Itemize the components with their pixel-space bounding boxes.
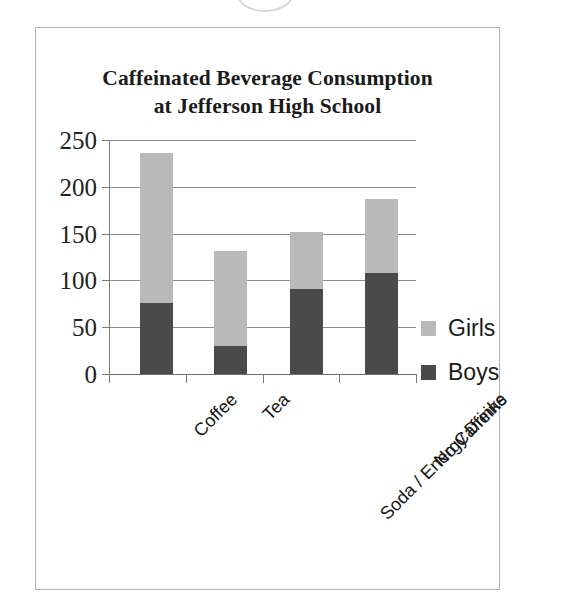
y-tick-mark-200 [102,187,110,188]
y-tick-mark-150 [102,234,110,235]
legend-label-boys: Boys [448,361,499,384]
bar-segment-coffee-boys[interactable] [140,303,173,374]
y-tick-label-150: 150 [60,221,98,246]
scan-artifact-circle [236,0,294,12]
chart-title-line-1: Caffeinated Beverage Consumption [36,64,499,92]
chart-title: Caffeinated Beverage Consumption at Jeff… [36,64,499,120]
bar-segment-tea-girls[interactable] [214,251,247,346]
bar-segment-no-caffeine-girls[interactable] [365,199,398,273]
y-tick-label-200: 200 [60,174,98,199]
x-axis-label-tea: Tea [260,390,293,423]
legend-item-boys[interactable]: Boys [421,350,499,394]
bar-segment-coffee-girls[interactable] [140,153,173,303]
legend-swatch-girls-icon [421,321,436,336]
y-tick-mark-100 [102,280,110,281]
y-tick-mark-250 [102,140,110,141]
x-tick-mark-4 [416,374,417,383]
y-tick-mark-50 [102,327,110,328]
legend-item-girls[interactable]: Girls [421,306,499,350]
x-axis-label-no-caffeine: No Caffeine [431,390,511,470]
bar-segment-no-caffeine-boys[interactable] [365,273,398,374]
bar-segment-soda-boys[interactable] [290,289,323,374]
y-tick-label-50: 50 [72,315,97,340]
plot-area: 250 200 150 100 50 0 [109,140,416,374]
x-axis-label-coffee: Coffee [190,390,240,440]
x-tick-mark-3 [339,374,340,383]
gridline-250 [109,140,416,141]
bar-segment-soda-girls[interactable] [290,232,323,289]
bar-segment-tea-boys[interactable] [214,346,247,374]
x-tick-mark-0 [109,374,110,383]
legend-swatch-boys-icon [421,365,436,380]
chart-legend: Girls Boys [421,306,499,394]
x-tick-mark-1 [186,374,187,383]
chart-title-line-2: at Jefferson High School [36,92,499,120]
y-axis-line [109,140,110,374]
chart-frame: Caffeinated Beverage Consumption at Jeff… [35,27,500,590]
legend-label-girls: Girls [448,317,495,340]
y-tick-label-250: 250 [60,128,98,153]
y-tick-label-0: 0 [85,362,98,387]
x-tick-mark-2 [263,374,264,383]
y-tick-label-100: 100 [60,268,98,293]
